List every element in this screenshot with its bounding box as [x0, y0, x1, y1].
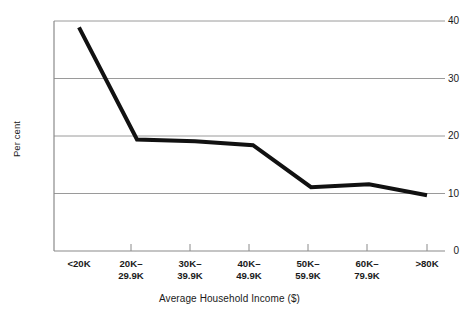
y-tick-label-0: 0: [413, 246, 459, 256]
y-tick-label-30: 30: [413, 74, 459, 84]
y-tick-label-10: 10: [413, 189, 459, 199]
gridlines: [54, 21, 445, 194]
y-axis-title-label: Per cent: [11, 121, 22, 157]
data-series-line: [79, 27, 427, 195]
y-tick-label-40: 40: [413, 16, 459, 26]
x-tick-label-6: >80K: [392, 258, 462, 270]
x-tick-marks: [131, 244, 427, 251]
x-axis-title: Average Household Income ($): [0, 293, 459, 304]
y-tick-label-20: 20: [413, 131, 459, 141]
y-axis-title: Per cent: [9, 104, 23, 174]
